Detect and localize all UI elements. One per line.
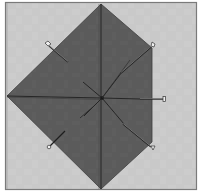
pinned-fold-photo (0, 0, 200, 192)
